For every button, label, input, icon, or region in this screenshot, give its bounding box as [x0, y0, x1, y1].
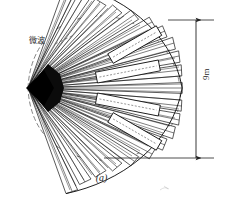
scan-artifact	[160, 186, 169, 190]
dimension-label: 9m	[201, 68, 211, 80]
microwave-label: 微波	[29, 36, 45, 45]
figure-caption: (a)	[0, 172, 203, 183]
figure-root: 微波 9m (a)	[0, 0, 231, 205]
